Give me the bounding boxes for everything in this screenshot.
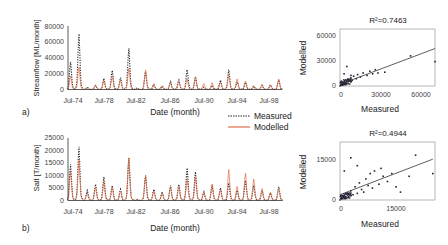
b-scatter-points bbox=[339, 154, 433, 200]
a-timeseries-series bbox=[67, 34, 283, 90]
b-scatter-frame bbox=[340, 142, 435, 200]
a-sc-ytick: 0 bbox=[332, 82, 336, 89]
a-ts-yticks: 0 20000 40000 60000 80000 bbox=[45, 23, 65, 93]
a-ts-xtick: Jul-74 bbox=[63, 97, 82, 104]
b-ts-ytick: 25000 bbox=[45, 134, 65, 141]
a-sc-xtick: 0 bbox=[339, 91, 343, 98]
a-sc-ylabel: Modelled bbox=[298, 40, 308, 75]
a-sc-xtick: 30000 bbox=[371, 91, 391, 98]
a-ts-xtick: Jul-78 bbox=[94, 97, 113, 104]
b-timeseries-series bbox=[67, 147, 283, 201]
b-sc-xticks: 0 15000 bbox=[339, 205, 406, 212]
a-ts-xtick: Jul-94 bbox=[227, 97, 246, 104]
a-ts-xtick: Jul-86 bbox=[160, 97, 179, 104]
b-ts-xtick: Jul-94 bbox=[227, 208, 246, 215]
a-sc-ytick: 30000 bbox=[317, 57, 337, 64]
b-ts-xtick: Jul-86 bbox=[160, 208, 179, 215]
a-ts-xlabel: Date (month) bbox=[150, 107, 200, 117]
a-ts-ytick: 0 bbox=[60, 86, 64, 93]
panel-a-timeseries: 0 20000 40000 60000 80000 Jul-74 Jul-78 … bbox=[22, 19, 283, 117]
panel-b-label: b) bbox=[22, 223, 30, 233]
b-sc-yticks: 0 15000 bbox=[317, 156, 337, 203]
b-ts-ytick: 5000 bbox=[48, 184, 64, 191]
legend-measured-label: Measured bbox=[254, 111, 292, 121]
b-sc-xtick: 0 bbox=[339, 205, 343, 212]
a-ts-ytick: 60000 bbox=[45, 38, 65, 45]
a-ts-xticks: Jul-74 Jul-78 Jul-82 Jul-86 Jul-90 Jul-9… bbox=[63, 97, 278, 104]
a-sc-xlabel: Measured bbox=[361, 104, 399, 114]
b-r2-annotation: R²=0.4944 bbox=[369, 129, 407, 138]
a-ts-xtick: Jul-98 bbox=[259, 97, 278, 104]
b-ts-yticks: 0 5000 10000 15000 20000 25000 bbox=[45, 134, 65, 204]
b-ts-xtick: Jul-82 bbox=[126, 208, 145, 215]
a-ts-xtick: Jul-82 bbox=[126, 97, 145, 104]
b-ts-xticks: Jul-74 Jul-78 Jul-82 Jul-86 Jul-90 Jul-9… bbox=[63, 208, 278, 215]
b-ts-ytick: 15000 bbox=[45, 159, 65, 166]
b-sc-xlabel: Measured bbox=[361, 219, 399, 229]
a-scatter-frame bbox=[340, 29, 435, 86]
legend-modelled-label: Modelled bbox=[254, 122, 289, 132]
a-sc-xticks: 0 30000 60000 bbox=[339, 91, 431, 98]
b-ts-xlabel: Date (month) bbox=[150, 223, 200, 233]
legend: Measured Modelled bbox=[228, 111, 292, 132]
a-ts-ylabel: Streamflow [ML/month] bbox=[32, 19, 41, 96]
a-sc-yticks: 0 30000 60000 bbox=[317, 32, 337, 89]
b-ts-ytick: 20000 bbox=[45, 147, 65, 154]
b-ts-xtick: Jul-90 bbox=[194, 208, 213, 215]
b-ts-xtick: Jul-78 bbox=[94, 208, 113, 215]
b-sc-xtick: 15000 bbox=[386, 205, 406, 212]
b-sc-ytick: 0 bbox=[332, 196, 336, 203]
panel-a-label: a) bbox=[22, 107, 30, 117]
a-ts-xtick: Jul-90 bbox=[194, 97, 213, 104]
figure-canvas: 0 20000 40000 60000 80000 Jul-74 Jul-78 … bbox=[0, 0, 448, 245]
a-sc-xtick: 60000 bbox=[411, 91, 431, 98]
b-ts-xtick: Jul-74 bbox=[63, 208, 82, 215]
b-ts-ylabel: Salt [T/month] bbox=[32, 145, 41, 192]
a-ts-ytick: 80000 bbox=[45, 23, 65, 30]
b-ts-xtick: Jul-98 bbox=[259, 208, 278, 215]
panel-a-scatter: R²=0.7463 0 30000 60000 0 30000 60000 Mo… bbox=[298, 16, 436, 114]
b-ts-ytick: 0 bbox=[60, 197, 64, 204]
panel-b-scatter: R²=0.4944 0 15000 0 15000 Modelled Measu… bbox=[298, 129, 435, 229]
a-r2-annotation: R²=0.7463 bbox=[369, 16, 407, 25]
b-ts-ytick: 10000 bbox=[45, 172, 65, 179]
a-sc-ytick: 60000 bbox=[317, 32, 337, 39]
a-ts-ytick: 40000 bbox=[45, 54, 65, 61]
b-sc-ylabel: Modelled bbox=[298, 154, 308, 189]
panel-b-timeseries: 0 5000 10000 15000 20000 25000 Jul-74 Ju… bbox=[22, 134, 283, 233]
b-sc-ytick: 15000 bbox=[317, 156, 337, 163]
a-scatter-points bbox=[339, 49, 436, 87]
a-ts-ytick: 20000 bbox=[45, 70, 65, 77]
